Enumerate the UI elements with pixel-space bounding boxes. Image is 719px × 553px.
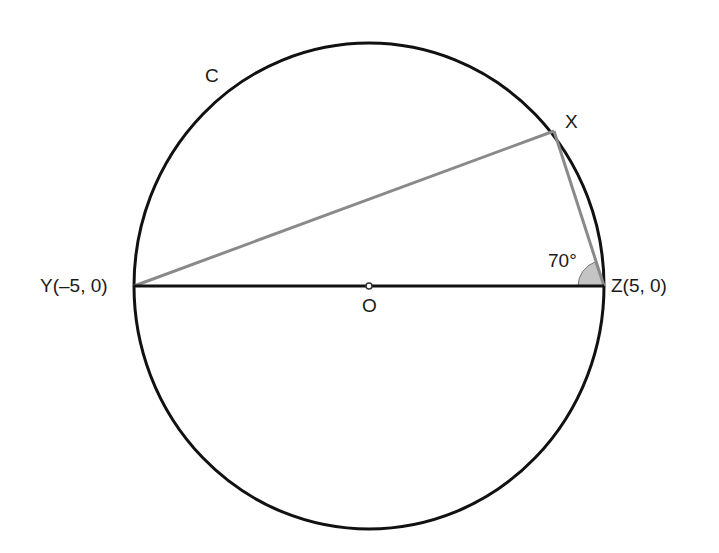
label-point-z: Z(5, 0) [611, 276, 667, 295]
label-point-x: X [565, 112, 578, 131]
label-angle-70: 70° [548, 251, 577, 270]
label-point-y: Y(–5, 0) [40, 276, 108, 295]
chord-yx [134, 131, 554, 286]
label-circle-c: C [205, 66, 219, 85]
center-point-o [366, 283, 372, 289]
label-center-o: O [362, 296, 377, 315]
